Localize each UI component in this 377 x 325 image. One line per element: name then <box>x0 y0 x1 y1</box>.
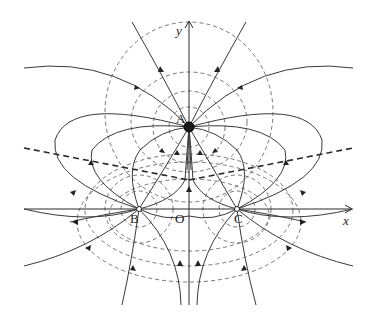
charge-a <box>184 122 194 132</box>
y-axis-label: y <box>176 24 182 37</box>
charge-a-label: A <box>176 112 185 125</box>
charge-c-label: C <box>234 212 243 225</box>
x-axis-label: x <box>343 214 349 227</box>
charge-b-label: B <box>130 212 139 225</box>
arrowheads <box>70 66 306 271</box>
origin-label: O <box>175 212 184 225</box>
field-diagram: y x A B C O <box>0 0 377 325</box>
